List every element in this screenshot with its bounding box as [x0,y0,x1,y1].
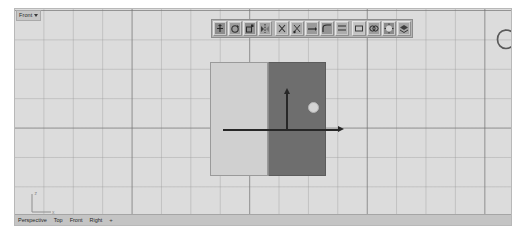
tab-right[interactable]: Right [89,216,102,225]
gizmo-x-axis-arrowhead[interactable] [338,126,344,132]
floating-toolbar[interactable] [211,19,413,38]
render-tool-button[interactable] [382,21,396,36]
layer-tool-button[interactable] [397,21,411,36]
move-tool-button[interactable] [213,21,227,36]
transform-gizmo[interactable] [210,62,360,176]
add-viewport-tab-button[interactable]: + [109,216,113,225]
tab-perspective[interactable]: Perspective [18,216,47,225]
array-tool-button[interactable] [352,21,366,36]
svg-text:z: z [35,190,38,196]
extend-tool-button[interactable] [305,21,319,36]
tab-front[interactable]: Front [70,216,83,225]
gizmo-plane-handle[interactable] [308,102,319,113]
fillet-tool-button[interactable] [320,21,334,36]
offset-tool-button[interactable] [335,21,349,36]
mirror-tool-button[interactable] [258,21,272,36]
rotate-tool-button[interactable] [228,21,242,36]
viewport-front[interactable]: Front [15,9,511,214]
chevron-down-icon [34,14,38,17]
boolean-tool-button[interactable] [367,21,381,36]
split-tool-button[interactable] [290,21,304,36]
modeling-application-window: Front [14,8,512,226]
axis-indicator: z x [27,187,61,214]
gizmo-y-axis-arrowhead[interactable] [284,88,290,94]
circle-annotation [493,27,511,53]
viewport-title-menu[interactable]: Front [16,10,41,21]
trim-tool-button[interactable] [275,21,289,36]
scale-tool-button[interactable] [243,21,257,36]
tab-top[interactable]: Top [54,216,63,225]
gizmo-x-axis-arrow[interactable] [223,129,340,131]
gizmo-y-axis-arrow[interactable] [286,90,288,130]
viewport-tab-bar[interactable]: Perspective Top Front Right + [15,214,511,225]
viewport-title-label: Front [19,11,32,20]
